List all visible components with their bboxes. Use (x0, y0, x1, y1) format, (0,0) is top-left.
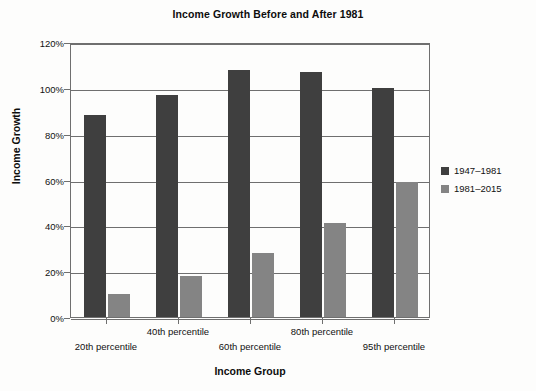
bar-group (156, 44, 202, 317)
bar-20th-percentile-series-0 (84, 115, 106, 317)
bar-95th-percentile-series-1 (396, 182, 418, 317)
chart-title: Income Growth Before and After 1981 (0, 8, 536, 20)
bar-60th-percentile-series-0 (228, 70, 250, 318)
x-axis-tick-mark (394, 318, 395, 324)
legend-item: 1947–1981 (441, 163, 502, 178)
y-axis-tick-label: 20% (22, 267, 64, 278)
plot-area (70, 43, 430, 318)
bar-40th-percentile-series-1 (180, 276, 202, 317)
legend-label: 1981–2015 (454, 183, 502, 194)
x-axis-tick-label: 80th percentile (291, 326, 353, 337)
bar-60th-percentile-series-1 (252, 253, 274, 317)
legend: 1947–19811981–2015 (441, 163, 502, 199)
legend-swatch-icon (441, 185, 449, 193)
bar-group (300, 44, 346, 317)
bar-group (228, 44, 274, 317)
x-axis-tick-mark (322, 318, 323, 324)
y-axis-tick-labels: 0%20%40%60%80%100%120% (18, 43, 64, 318)
y-axis-tick-label: 80% (22, 129, 64, 140)
x-axis-tick-label: 60th percentile (219, 341, 281, 352)
y-axis-tick-label: 40% (22, 221, 64, 232)
bar-80th-percentile-series-1 (324, 223, 346, 317)
legend-swatch-icon (441, 167, 449, 175)
bar-95th-percentile-series-0 (372, 88, 394, 317)
x-axis-tick-label: 40th percentile (147, 326, 209, 337)
bar-20th-percentile-series-1 (108, 294, 130, 317)
bar-40th-percentile-series-0 (156, 95, 178, 317)
legend-item: 1981–2015 (441, 181, 502, 196)
bar-group (84, 44, 130, 317)
bar-80th-percentile-series-0 (300, 72, 322, 317)
x-axis-tick-label: 95th percentile (363, 341, 425, 352)
legend-label: 1947–1981 (454, 165, 502, 176)
y-axis-tick-label: 120% (22, 38, 64, 49)
bar-chart: Income Growth Before and After 1981 Inco… (0, 0, 536, 391)
bars-layer (71, 44, 429, 317)
x-axis-tick-mark (106, 318, 107, 324)
bar-group (372, 44, 418, 317)
x-axis-title: Income Group (0, 365, 500, 377)
y-axis-tick-mark (64, 318, 70, 319)
x-axis-tick-mark (250, 318, 251, 324)
y-axis-tick-label: 100% (22, 83, 64, 94)
x-axis-tick-mark (178, 318, 179, 324)
y-axis-tick-label: 60% (22, 175, 64, 186)
x-axis-tick-label: 20th percentile (75, 341, 137, 352)
y-axis-tick-label: 0% (22, 313, 64, 324)
